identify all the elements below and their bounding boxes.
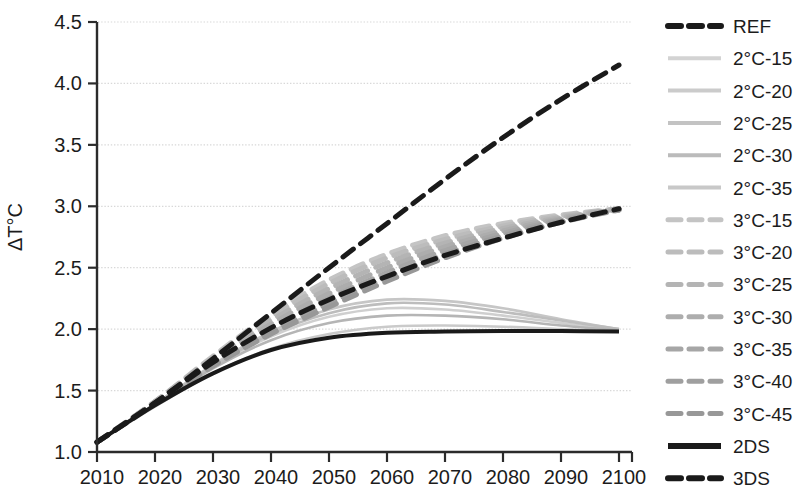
- legend: REF2°C-152°C-202°C-252°C-302°C-353°C-153…: [668, 16, 792, 489]
- y-tick-label: 2.0: [54, 318, 82, 340]
- y-tick-label: 3.5: [54, 134, 82, 156]
- legend-label-ref: REF: [733, 16, 771, 37]
- y-tick-label: 2.5: [54, 257, 82, 279]
- x-tick-label: 2050: [312, 466, 357, 488]
- legend-label-2ds: 2DS: [733, 436, 770, 457]
- y-tick-label: 1.5: [54, 380, 82, 402]
- legend-label-3c40: 3°C-40: [733, 371, 792, 392]
- x-tick-label: 2030: [196, 466, 241, 488]
- x-tick-label: 2040: [254, 466, 299, 488]
- x-tick-label: 2010: [80, 466, 125, 488]
- legend-label-3c45: 3°C-45: [733, 404, 792, 425]
- chart-page: 1.01.52.02.53.03.54.04.5 201020202030204…: [0, 0, 808, 496]
- y-tick-label: 1.0: [54, 441, 82, 463]
- x-tick-label: 2100: [602, 466, 647, 488]
- y-tick-label: 4.0: [54, 72, 82, 94]
- legend-label-3c15: 3°C-15: [733, 210, 792, 231]
- series-line-3c35: [97, 210, 619, 442]
- series-line-3c45: [97, 210, 619, 442]
- legend-label-2c20: 2°C-20: [733, 81, 792, 102]
- legend-label-3c25: 3°C-25: [733, 274, 792, 295]
- y-tick-labels: 1.01.52.02.53.03.54.04.5: [54, 11, 82, 463]
- x-tick-label: 2090: [544, 466, 589, 488]
- x-tick-label: 2080: [486, 466, 531, 488]
- legend-label-3c20: 3°C-20: [733, 242, 792, 263]
- temperature-projection-chart: 1.01.52.02.53.03.54.04.5 201020202030204…: [0, 0, 808, 496]
- legend-label-2c25: 2°C-25: [733, 113, 792, 134]
- legend-label-3ds: 3DS: [733, 468, 770, 489]
- y-tick-label: 4.5: [54, 11, 82, 33]
- plot-series: [97, 65, 619, 442]
- legend-label-2c35: 2°C-35: [733, 178, 792, 199]
- y-tick-label: 3.0: [54, 195, 82, 217]
- legend-label-3c35: 3°C-35: [733, 339, 792, 360]
- legend-label-2c15: 2°C-15: [733, 48, 792, 69]
- x-tick-label: 2060: [370, 466, 415, 488]
- legend-label-3c30: 3°C-30: [733, 307, 792, 328]
- x-tick-labels: 2010202020302040205020602070208020902100: [80, 466, 647, 488]
- y-axis-title: ΔT°C: [4, 203, 26, 251]
- legend-label-2c30: 2°C-30: [733, 145, 792, 166]
- x-tick-label: 2070: [428, 466, 473, 488]
- x-tick-label: 2020: [138, 466, 183, 488]
- y-axis-title-text: ΔT°C: [4, 203, 26, 251]
- series-line-3c40: [97, 210, 619, 442]
